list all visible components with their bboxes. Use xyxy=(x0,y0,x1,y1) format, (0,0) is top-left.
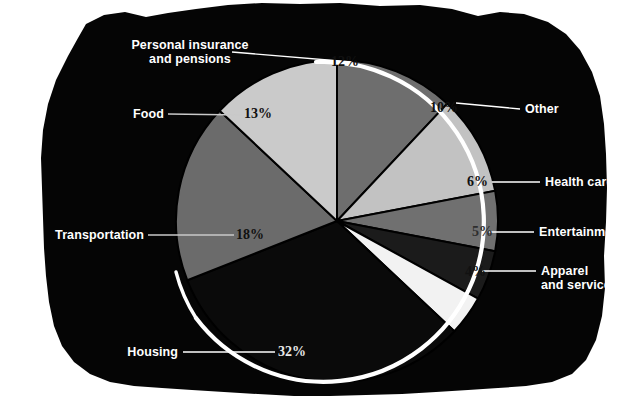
pie-label-other: Other xyxy=(525,102,559,116)
pie-label-transportation-line1: Transportation xyxy=(44,228,144,242)
pie-value-personal-insurance: 12% xyxy=(331,54,359,70)
leader-line-food xyxy=(168,114,242,115)
pie-value-food: 13% xyxy=(244,106,272,122)
pie-label-personal-insurance-line1: Personal insurance xyxy=(128,38,252,52)
pie-label-food: Food xyxy=(68,107,164,121)
pie-label-other-line1: Other xyxy=(525,102,559,116)
pie-label-housing: Housing xyxy=(100,345,178,359)
pie-label-personal-insurance: Personal insurance and pensions xyxy=(128,38,252,66)
pie-label-apparel-line1: Apparel xyxy=(541,264,618,278)
pie-label-food-line1: Food xyxy=(68,107,164,121)
leader-line-other xyxy=(456,103,520,109)
pie-label-health-care-line1: Health care xyxy=(545,175,614,189)
pie-value-entertainment: 5% xyxy=(472,224,493,240)
pie-label-health-care: Health care xyxy=(545,175,614,189)
pie-label-entertainment-line1: Entertainment xyxy=(539,225,624,239)
pie-label-transportation: Transportation xyxy=(44,228,144,242)
pie-label-apparel-line2: and services xyxy=(541,278,618,292)
pie-label-entertainment: Entertainment xyxy=(539,225,624,239)
pie-value-other: 10% xyxy=(430,100,458,116)
pie-label-apparel: Apparel and services xyxy=(541,264,618,292)
pie-value-health-care: 6% xyxy=(467,174,488,190)
pie-value-apparel: 4% xyxy=(465,264,486,280)
pie-chart xyxy=(0,0,638,414)
pie-value-housing: 32% xyxy=(278,344,306,360)
pie-label-housing-line1: Housing xyxy=(100,345,178,359)
infographic-canvas: Personal insurance and pensions Food Oth… xyxy=(0,0,638,414)
pie-label-personal-insurance-line2: and pensions xyxy=(128,52,252,66)
pie-value-transportation: 18% xyxy=(236,227,264,243)
